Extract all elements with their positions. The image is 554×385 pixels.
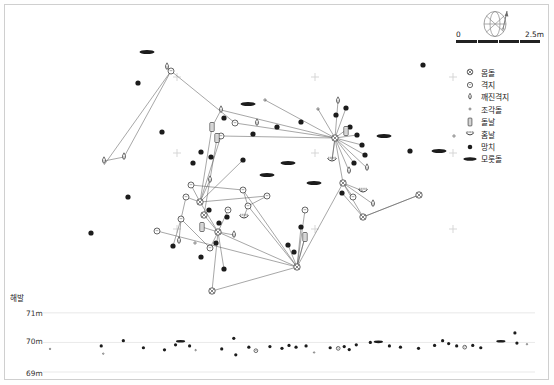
artifact-anvil xyxy=(241,102,256,106)
artifact-hammer xyxy=(100,344,103,347)
refit-line xyxy=(124,71,171,157)
flake-circle-icon xyxy=(462,79,478,91)
artifact-hammer xyxy=(513,331,516,334)
artifact-flake xyxy=(240,187,246,193)
artifact-blade xyxy=(468,118,472,126)
legend-item-flake-circle: 격지 xyxy=(462,78,546,90)
artifact-core xyxy=(340,180,346,186)
profile-svg xyxy=(5,290,548,380)
refit-line xyxy=(265,100,335,138)
artifact-core xyxy=(197,199,203,205)
artifact-hammer xyxy=(355,343,358,346)
legend-item-notch-crescent: 홈날 xyxy=(462,128,546,140)
artifact-core xyxy=(294,264,300,270)
artifact-hammer xyxy=(304,344,307,347)
grid-cross-marker xyxy=(311,73,319,81)
legend-label: 몸돌 xyxy=(481,67,495,78)
legend-label: 깨진격지 xyxy=(481,91,509,102)
artifact-blade xyxy=(303,233,307,242)
artifact-hammer xyxy=(298,224,303,229)
artifact-brokenflake xyxy=(255,119,258,126)
legend-item-broken-flake-teardrop: 깨진격지 xyxy=(462,91,546,103)
notch-crescent-icon xyxy=(462,128,478,140)
scale-min-label: 0 xyxy=(456,30,461,39)
artifact-fragment xyxy=(195,349,196,350)
artifact-flake xyxy=(467,82,472,87)
artifact-hammer xyxy=(388,344,391,347)
elevation-tick-70: 70m xyxy=(26,337,43,346)
figure-root: 해발 71m 70m 69m 0 2.5m 몸돌격지깨진격지조각돌돌날홈날망치모… xyxy=(0,0,554,385)
artifact-hammer xyxy=(280,347,283,350)
legend-label: 망치 xyxy=(481,141,495,152)
scale-bar: 0 2.5m xyxy=(456,30,544,43)
artifact-hammer xyxy=(232,337,235,340)
elevation-tick-69: 69m xyxy=(26,369,43,378)
artifact-hammer xyxy=(479,346,482,349)
artifact-hammer xyxy=(122,339,125,342)
artifact-anvil xyxy=(281,161,296,165)
artifact-hammer xyxy=(343,105,348,110)
artifact-fragment xyxy=(526,343,527,344)
artifact-flake xyxy=(302,207,308,213)
artifact-fragment xyxy=(194,242,196,244)
scale-bar-graphic xyxy=(456,40,540,43)
artifact-core xyxy=(215,229,221,235)
legend-item-blade-rectangle: 돌날 xyxy=(462,116,546,128)
artifact-hammer xyxy=(294,346,297,349)
artifact-hammer xyxy=(221,266,226,271)
artifact-hammer xyxy=(216,220,221,225)
artifact-anvil xyxy=(463,157,476,161)
artifact-hammer xyxy=(198,149,203,154)
legend: 몸돌격지깨진격지조각돌돌날홈날망치모룻돌 xyxy=(462,66,546,165)
artifact-flake xyxy=(232,120,238,126)
artifact-hammer xyxy=(125,194,130,199)
artifact-hammer xyxy=(224,214,229,219)
artifact-hammer xyxy=(417,347,420,350)
refit-line xyxy=(157,231,297,267)
artifact-hammer xyxy=(369,341,372,344)
artifact-hammer xyxy=(354,132,359,137)
refit-line xyxy=(181,197,186,219)
scale-max-label: 2.5m xyxy=(525,30,544,39)
artifact-fragment xyxy=(453,135,455,137)
legend-item-hammerstone-filled-dot: 망치 xyxy=(462,140,546,152)
artifact-anvil xyxy=(260,173,275,177)
artifact-core xyxy=(416,192,422,198)
refit-line xyxy=(171,71,235,123)
artifact-fragment xyxy=(313,352,314,353)
refit-line xyxy=(248,206,297,267)
artifact-hammer xyxy=(433,344,436,347)
artifact-hammer xyxy=(234,353,237,356)
legend-label: 홈날 xyxy=(481,129,495,140)
artifact-hammer xyxy=(351,160,356,165)
artifact-hammer xyxy=(407,148,412,153)
artifact-notch xyxy=(466,131,474,135)
blade-rectangle-icon xyxy=(462,116,478,128)
artifact-flake xyxy=(154,228,160,234)
artifact-hammer xyxy=(88,230,93,235)
artifact-hammer xyxy=(188,344,191,347)
artifact-flake xyxy=(188,182,194,188)
artifact-brokenflake xyxy=(336,97,339,104)
elevation-tick-71: 71m xyxy=(26,309,43,318)
artifact-hammer xyxy=(329,346,332,349)
artifact-hammer xyxy=(190,160,195,165)
artifact-hammer xyxy=(339,190,344,195)
artifact-hammer xyxy=(399,346,402,349)
artifact-hammer xyxy=(455,344,458,347)
anvil-ellipse-icon xyxy=(462,153,478,165)
artifact-hammer xyxy=(250,131,255,136)
broken-flake-teardrop-icon xyxy=(462,91,478,103)
artifact-brokenflake xyxy=(469,93,472,99)
artifact-core xyxy=(332,135,338,141)
refit-line xyxy=(218,232,224,269)
artifact-anvil xyxy=(374,341,383,344)
artifact-anvil xyxy=(176,340,185,343)
artifact-hammer xyxy=(441,339,444,342)
artifact-flake xyxy=(178,216,184,222)
artifact-hammer xyxy=(198,254,203,259)
artifact-hammer xyxy=(159,129,164,134)
refit-line xyxy=(235,123,335,138)
artifact-hammer xyxy=(343,345,346,348)
artifact-hammer xyxy=(142,346,145,349)
